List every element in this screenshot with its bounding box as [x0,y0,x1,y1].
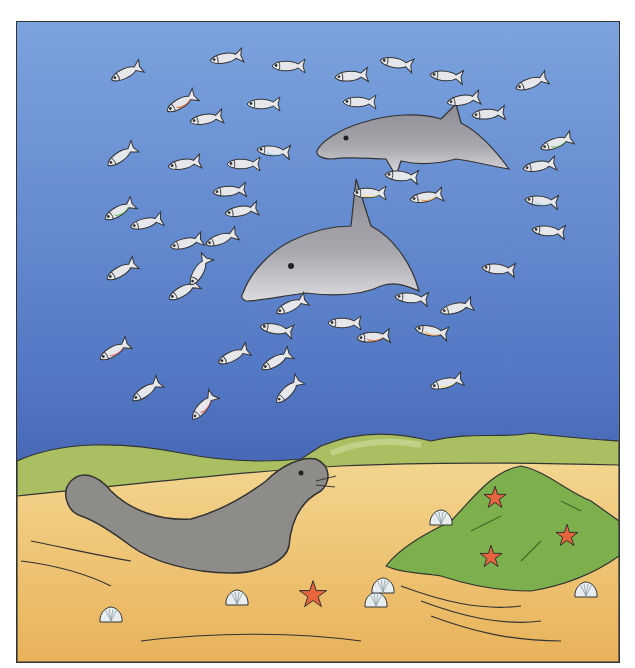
underwater-scene [17,22,619,662]
illustration-frame [16,21,620,663]
